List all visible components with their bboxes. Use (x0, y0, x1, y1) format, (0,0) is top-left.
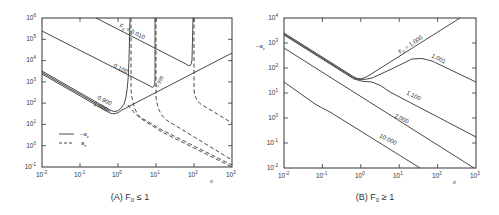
curve-a-f0-0.010-solid (96, 18, 193, 66)
svg-text:103: 103 (268, 38, 278, 46)
curve-b-f0-1.000 (284, 18, 460, 79)
panel-b-curves (284, 18, 476, 168)
svg-text:100: 100 (268, 113, 278, 121)
svg-text:101: 101 (268, 88, 278, 96)
svg-text:101: 101 (150, 170, 160, 178)
svg-text:100: 100 (112, 170, 122, 178)
svg-text:10-2: 10-2 (267, 163, 279, 171)
svg-text:106: 106 (26, 13, 36, 21)
panel-a-caption: (A) F0 ≤ 1 (111, 192, 149, 203)
svg-text:103: 103 (226, 170, 236, 178)
svg-text:102: 102 (26, 98, 36, 106)
svg-text:102: 102 (432, 171, 442, 179)
curve-a-f0-0.999-dashed (131, 18, 232, 165)
svg-text:102: 102 (188, 170, 198, 178)
curve-a-f0-1.000-solid (42, 53, 232, 114)
svg-text:103: 103 (470, 171, 480, 179)
svg-text:10-1: 10-1 (25, 162, 37, 170)
curve-b-f0-10.000 (284, 82, 420, 168)
svg-text:100: 100 (26, 141, 36, 149)
panel-a-x-axis-label: σ (210, 178, 214, 184)
curve-a-f0-0.010-dashed (194, 18, 232, 123)
svg-text:105: 105 (26, 34, 36, 42)
label-a-f0-0.100: 0.100 (113, 63, 130, 75)
label-b-f0-1.001: 1.001 (431, 53, 448, 65)
svg-text:100: 100 (355, 171, 365, 179)
svg-text:10-2: 10-2 (36, 170, 48, 178)
panel-b-frame (284, 18, 476, 168)
label-b-f0-1.100: 1.100 (406, 90, 423, 102)
svg-text:10-1: 10-1 (74, 170, 86, 178)
panel-a-x-tick-labels: 10-2 10-1 100 101 102 103 σ (36, 170, 236, 184)
panel-b-x-tick-labels: 10-2 10-1 100 101 102 103 σ (278, 171, 480, 185)
panel-b-x-axis-label: σ (453, 179, 457, 185)
panel-a-y-ticks (42, 39, 232, 145)
svg-text:10-1: 10-1 (267, 138, 279, 146)
svg-text:10-1: 10-1 (316, 171, 328, 179)
curve-a-f0-0.100-solid (42, 18, 155, 87)
panel-a-y-tick-labels: 106 105 104 103 102 101 100 10-1 (25, 13, 37, 170)
svg-text:101: 101 (26, 119, 36, 127)
svg-text:101: 101 (393, 171, 403, 179)
label-b-f0-1.000: F0 = 1.000 (397, 34, 425, 56)
panel-a-frame (42, 18, 232, 167)
panel-a-x-ticks (80, 18, 194, 167)
curve-b-f0-2.000 (284, 48, 474, 168)
panel-b-caption: (B) F0 ≥ 1 (356, 192, 394, 203)
curve-b-f0-1.100 (284, 35, 476, 137)
curve-a-f0-0.900-dashed (128, 105, 232, 167)
panel-a-dashed-curves (128, 18, 232, 167)
svg-text:104: 104 (26, 55, 36, 63)
label-a-f0-0.010: F0 = 0.010 (118, 23, 147, 43)
panel-a: 10-2 10-1 100 101 102 103 σ 106 105 104 … (25, 13, 236, 203)
curve-b-f0-1.001 (284, 34, 476, 82)
panel-b-y-tick-labels: 104 103 102 101 100 10-1 10-2 (267, 13, 279, 171)
legend-dashed-label: az (81, 140, 86, 148)
panel-b-y-ticks (284, 43, 476, 143)
figure: 10-2 10-1 100 101 102 103 σ 106 105 104 … (0, 0, 499, 215)
svg-text:102: 102 (268, 63, 278, 71)
svg-text:10-2: 10-2 (278, 171, 290, 179)
svg-text:104: 104 (268, 13, 278, 21)
panel-b: 10-2 10-1 100 101 102 103 σ 104 103 102 … (256, 13, 480, 203)
label-b-f0-2.000: 2.000 (394, 113, 411, 125)
panel-b-y-axis-label: −az (256, 43, 265, 51)
svg-text:103: 103 (26, 77, 36, 85)
panel-a-legend: −az az (59, 131, 89, 148)
legend-solid-label: −az (80, 131, 89, 139)
